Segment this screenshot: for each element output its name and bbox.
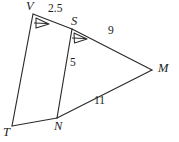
segment-TN [12,118,57,126]
vertex-label-T: T [3,126,10,139]
vertex-label-M: M [158,62,168,75]
vertex-label-V: V [26,0,34,13]
segment-VT [12,14,33,126]
geometry-figure: V S M N T 2.5 9 5 11 [0,0,179,142]
side-label-VS: 2.5 [48,3,62,15]
angle-mark-S-icon [73,33,88,43]
figure-canvas [0,0,179,142]
segment-SN [57,29,72,118]
side-label-SN: 5 [70,57,76,69]
vertex-label-S: S [71,15,77,28]
vertex-label-N: N [54,120,62,133]
side-label-SM: 9 [108,25,114,37]
side-label-NM: 11 [94,95,105,107]
